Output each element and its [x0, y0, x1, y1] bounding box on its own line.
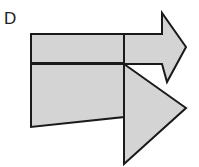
figure-container: D	[0, 0, 199, 167]
arrow-shaft-rectangle-shape	[31, 34, 124, 63]
lower-left-quadrilateral-shape	[31, 64, 124, 127]
geometric-figure-svg	[0, 0, 199, 167]
lower-right-triangle-shape	[124, 64, 186, 164]
